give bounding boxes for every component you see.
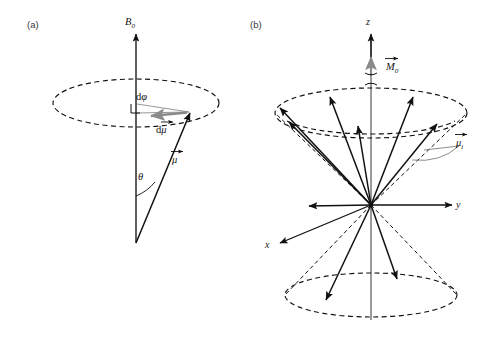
m0-label: M0 xyxy=(385,61,399,75)
mu-vector-label: μ xyxy=(171,154,177,165)
moment-vector-upper-7 xyxy=(309,205,371,206)
moment-vector-lower-1 xyxy=(326,205,371,300)
dmu-label: dμ xyxy=(156,124,167,135)
moment-vector-upper-3 xyxy=(330,97,371,205)
dphi-angle-label: dφ xyxy=(136,91,147,102)
panel-a-group: (a) B0 μ dφ dμ xyxy=(27,16,219,243)
figure-canvas: (a) B0 μ dφ dμ xyxy=(0,0,483,340)
dphi-wedge-upper-edge xyxy=(137,104,189,112)
b0-axis-label: B0 xyxy=(125,16,135,30)
panel-a-label: (a) xyxy=(27,19,39,30)
lower-cone-right-generator xyxy=(371,205,457,295)
y-axis-label: y xyxy=(455,199,461,210)
mu-i-leader-upper xyxy=(424,146,459,150)
x-axis-line xyxy=(280,205,371,243)
origin-point xyxy=(369,203,373,207)
theta-angle-arc xyxy=(136,182,155,196)
x-axis-label: x xyxy=(264,239,270,250)
panel-b-label: (b) xyxy=(250,19,262,30)
mu-i-leader-lower xyxy=(412,146,459,160)
theta-angle-label: θ xyxy=(138,171,143,182)
panel-b-group: (b) z M0 xyxy=(250,16,467,320)
moment-vector-upper-5 xyxy=(371,97,413,205)
figure-svg: (a) B0 μ dφ dμ xyxy=(0,0,483,340)
moment-vector-lower-2 xyxy=(371,205,397,279)
upper-cone-right-generator xyxy=(371,113,467,205)
lower-cone-left-generator xyxy=(285,205,371,295)
z-axis-label: z xyxy=(365,16,370,27)
